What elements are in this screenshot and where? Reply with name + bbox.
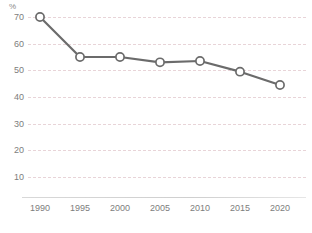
series-line xyxy=(40,17,280,85)
data-point-1990 xyxy=(36,13,44,21)
series-plot-area xyxy=(0,0,312,233)
line-chart: % 70 60 50 40 30 20 10 1990 1995 2000 20… xyxy=(0,0,312,233)
data-point-2005 xyxy=(156,58,164,66)
data-point-2000 xyxy=(116,53,124,61)
data-point-2010 xyxy=(196,57,204,65)
data-point-2020 xyxy=(276,81,284,89)
data-point-1995 xyxy=(76,53,84,61)
data-point-2015 xyxy=(236,68,244,76)
